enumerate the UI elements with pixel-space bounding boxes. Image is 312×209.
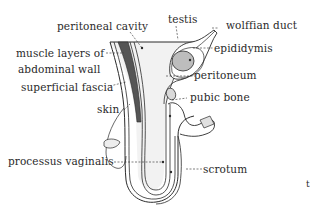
testis-descent-illustration [0,0,312,209]
label-peritoneum: peritoneum [194,70,257,81]
label-wolffian-duct: wolffian duct [226,20,297,31]
label-scrotum: scrotum [203,164,247,175]
glans-outline [104,139,120,148]
label-epididymis: epididymis [214,43,273,54]
corner-mark: t [306,180,310,189]
label-pubic-bone: pubic bone [190,92,250,103]
label-superficial-fascia: superficial fascia [21,82,113,93]
anatomy-diagram: peritoneal cavity testis wolffian duct m… [0,0,312,209]
pubic-bone-cross-section [200,116,214,128]
pubic-bone-dot [169,115,171,117]
cavity-dot [170,171,172,173]
label-muscle-layers-line2: abdominal wall [18,64,100,75]
processus-vaginalis-dot [162,161,164,163]
label-skin: skin [97,104,119,115]
epididymis-dot [189,59,191,61]
label-muscle-layers-line1: muscle layers of [16,48,104,59]
label-testis: testis [168,14,197,25]
label-processus-vaginalis: processus vaginalis [8,156,114,167]
testis-shape [172,51,194,71]
leader-skin [124,104,130,110]
label-peritoneal-cavity: peritoneal cavity [57,21,148,32]
leader-testis [176,26,178,40]
